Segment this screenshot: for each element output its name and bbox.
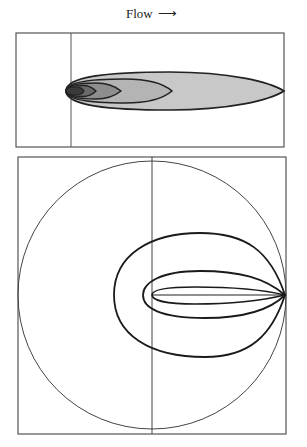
diagram-canvas bbox=[0, 0, 307, 447]
bottom-panel bbox=[18, 157, 286, 434]
contour-5 bbox=[66, 87, 84, 95]
top-panel bbox=[16, 33, 284, 147]
